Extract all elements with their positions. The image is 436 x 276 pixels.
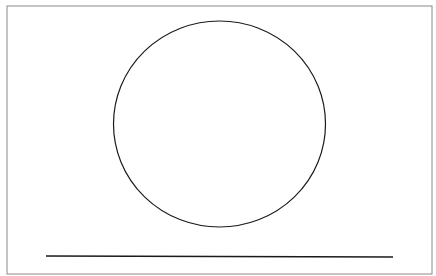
diagram-canvas xyxy=(0,0,436,276)
frame-border xyxy=(7,6,432,274)
baseline-line xyxy=(46,256,393,257)
